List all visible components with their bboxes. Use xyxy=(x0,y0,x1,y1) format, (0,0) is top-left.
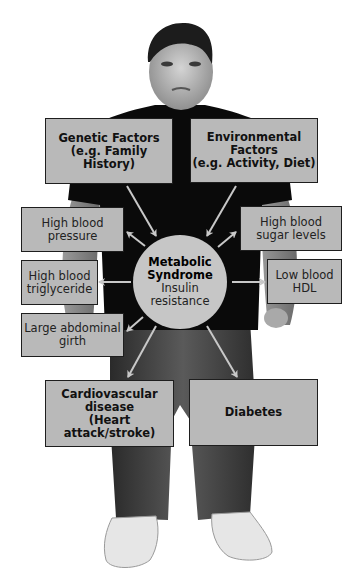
diabetes-box: Diabetes xyxy=(189,379,318,446)
environmental-line-3: (e.g. Activity, Diet) xyxy=(192,157,315,170)
tri-line-1: High blood xyxy=(29,270,91,283)
hdl-line-1: Low blood xyxy=(275,269,333,282)
sugar-line-2: sugar levels xyxy=(256,229,325,242)
genetic-line-2: (e.g. Family History) xyxy=(46,145,172,171)
genetic-line-1: Genetic Factors xyxy=(58,132,159,145)
sugar-line-1: High blood xyxy=(260,216,322,229)
head xyxy=(148,23,213,110)
cvd-line-3: (Heart attack/stroke) xyxy=(46,414,173,440)
environmental-factors-box: Environmental Factors (e.g. Activity, Di… xyxy=(190,118,318,183)
center-subtitle-2: resistance xyxy=(151,295,210,308)
cardiovascular-disease-box: Cardiovascular disease (Heart attack/str… xyxy=(45,380,174,447)
tri-line-2: triglyceride xyxy=(27,283,92,296)
hbp-line-2: pressure xyxy=(48,230,98,243)
cvd-line-2: disease xyxy=(85,401,134,414)
hbp-line-1: High blood xyxy=(42,217,104,230)
high-blood-sugar-box: High blood sugar levels xyxy=(240,206,342,251)
metabolic-syndrome-circle: Metabolic Syndrome Insulin resistance xyxy=(133,235,227,329)
high-blood-triglyceride-box: High blood triglyceride xyxy=(21,260,98,305)
high-blood-pressure-box: High blood pressure xyxy=(21,207,124,252)
genetic-factors-box: Genetic Factors (e.g. Family History) xyxy=(45,118,173,184)
large-abdominal-girth-box: Large abdominal girth xyxy=(21,313,124,357)
cvd-line-1: Cardiovascular xyxy=(61,388,157,401)
low-blood-hdl-box: Low blood HDL xyxy=(267,259,342,304)
hdl-line-2: HDL xyxy=(293,282,317,295)
girth-line-2: girth xyxy=(59,335,86,348)
shoes xyxy=(104,512,272,568)
diabetes-line-1: Diabetes xyxy=(225,406,282,419)
